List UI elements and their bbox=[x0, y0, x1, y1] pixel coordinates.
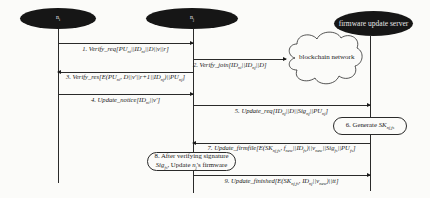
participant-nj-label: nj bbox=[190, 14, 194, 23]
message-5-label: 5. Update_req[IDnj||D||Signj||PUnj] bbox=[193, 107, 370, 116]
server-label: firmware update server bbox=[339, 19, 409, 28]
participant-nj: nj bbox=[146, 8, 238, 29]
action-8-verify-and-update: 8. After verifying signatureSigfs, Updat… bbox=[147, 152, 236, 171]
message-1-label: 1. Verify_req[PUni||IDni||D||v||r] bbox=[58, 45, 193, 54]
blockchain-network-label: blockchain network bbox=[299, 53, 354, 61]
action-6-generate-key: 6. Generate SKnj,fs bbox=[333, 117, 407, 135]
message-1-arrow bbox=[58, 43, 193, 44]
message-9-label: 9. Update_finished[E(SKnj,fs, IDnj||vnew… bbox=[193, 177, 370, 186]
action-6-label: 6. Generate SKnj,fs bbox=[346, 121, 395, 131]
message-5-arrow bbox=[193, 105, 370, 106]
action-8-label: 8. After verifying signatureSigfs, Updat… bbox=[155, 152, 229, 170]
participant-ni: ni bbox=[20, 8, 96, 29]
message-4-label: 4. Update_notice[IDni||v'] bbox=[58, 96, 193, 105]
message-3-label: 3. Verify_res[E(PUni, D||v'||r+1||IDnj)|… bbox=[58, 73, 193, 82]
message-9-arrow bbox=[193, 175, 370, 176]
participant-ni-label: ni bbox=[56, 14, 60, 23]
message-4-arrow bbox=[58, 94, 193, 95]
message-2-arrow bbox=[193, 59, 286, 60]
lifeline-server bbox=[370, 36, 371, 191]
message-2-label: 2. Verify_join[IDni||IDnj||D] bbox=[193, 61, 283, 70]
